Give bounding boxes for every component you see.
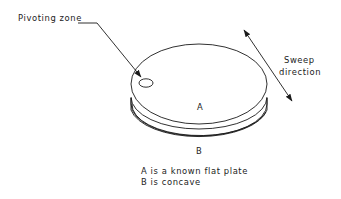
plate-a-label: A: [197, 102, 203, 112]
pivoting-zone-label: Pivoting zone: [18, 13, 82, 23]
plate-a-top-surface: [131, 44, 267, 124]
pivoting-zone-leader-line: [78, 23, 141, 77]
sweep-label-line1: Sweep: [284, 55, 315, 65]
sweep-direction-callout: Sweep direction: [244, 30, 321, 101]
pivoting-zone-callout: Pivoting zone: [18, 13, 141, 77]
plate-b-label: B: [196, 146, 202, 156]
legend: A is a known flat plate B is concave: [141, 166, 248, 187]
optical-flat-diagram: Pivoting zone Sweep direction A B A is a…: [0, 0, 341, 199]
legend-line-b: B is concave: [141, 177, 201, 187]
plate-stack: [131, 44, 267, 137]
pivoting-zone-marker: [139, 79, 153, 87]
sweep-direction-double-arrow: [244, 30, 292, 101]
legend-line-a: A is a known flat plate: [141, 166, 248, 176]
sweep-label-line2: direction: [279, 67, 321, 77]
